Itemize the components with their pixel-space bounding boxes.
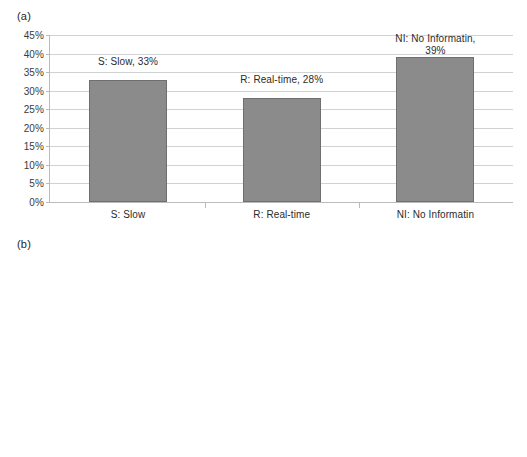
y-axis-tick-label: 20% bbox=[24, 122, 44, 133]
panel-a-label: (a) bbox=[17, 10, 31, 22]
x-axis-tick-mark bbox=[205, 203, 206, 208]
panel-a: (a) 0%5%10%15%20%25%30%35%40%45%S: Slow,… bbox=[0, 0, 527, 230]
y-axis-tick-label: 35% bbox=[24, 67, 44, 78]
plot-area-a: 0%5%10%15%20%25%30%35%40%45%S: Slow, 33%… bbox=[50, 35, 513, 203]
gridline bbox=[50, 202, 513, 203]
y-axis-tick-mark bbox=[46, 128, 50, 129]
panel-b-label: (b) bbox=[17, 238, 31, 250]
panel-b: (b) 0%10%20%30%40%50%60%70%80%Additional… bbox=[0, 230, 527, 457]
y-axis-tick-mark bbox=[46, 183, 50, 184]
y-axis-tick-label: 30% bbox=[24, 85, 44, 96]
y-axis-line-a bbox=[49, 35, 50, 203]
y-axis-tick-mark bbox=[46, 165, 50, 166]
y-axis-tick-mark bbox=[46, 54, 50, 55]
y-axis-tick-label: 15% bbox=[24, 141, 44, 152]
bar-chart-figure: (a) 0%5%10%15%20%25%30%35%40%45%S: Slow,… bbox=[0, 0, 527, 457]
x-axis-label-ni-noinformatin: NI: No Informatin bbox=[345, 209, 525, 220]
x-axis-tick-mark bbox=[359, 203, 360, 208]
bar bbox=[396, 57, 474, 202]
bar-data-label: S: Slow, 33% bbox=[53, 56, 203, 68]
y-axis-tick-label: 25% bbox=[24, 104, 44, 115]
y-axis-tick-mark bbox=[46, 72, 50, 73]
y-axis-tick-label: 45% bbox=[24, 30, 44, 41]
bar-data-label: NI: No Informatin, 39% bbox=[360, 33, 510, 57]
y-axis-tick-label: 40% bbox=[24, 48, 44, 59]
y-axis-tick-label: 5% bbox=[29, 178, 44, 189]
y-axis-tick-mark bbox=[46, 91, 50, 92]
y-axis-tick-mark bbox=[46, 202, 50, 203]
bar bbox=[243, 98, 321, 202]
y-axis-tick-mark bbox=[46, 35, 50, 36]
bar-data-label: R: Real-time, 28% bbox=[207, 74, 357, 86]
y-axis-tick-mark bbox=[46, 146, 50, 147]
y-axis-tick-mark bbox=[46, 109, 50, 110]
y-axis-tick-label: 10% bbox=[24, 159, 44, 170]
y-axis-tick-label: 0% bbox=[29, 197, 44, 208]
bar bbox=[89, 80, 167, 202]
